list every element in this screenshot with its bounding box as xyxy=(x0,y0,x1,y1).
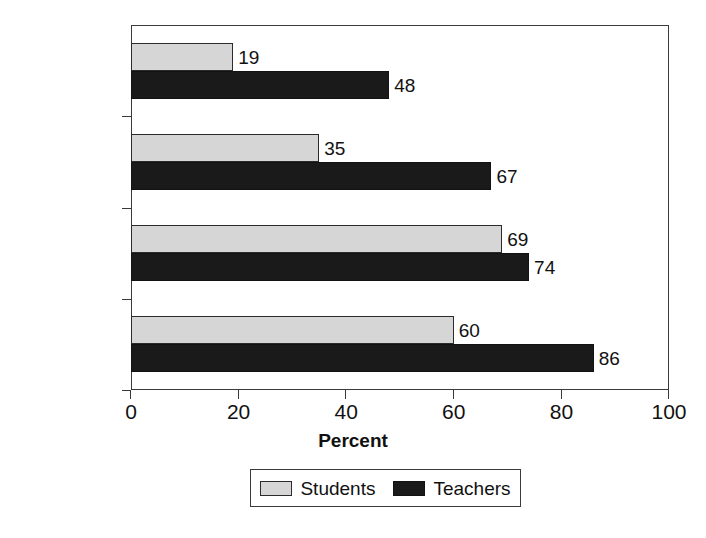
x-axis-title: Percent xyxy=(0,430,706,452)
bar-students-science xyxy=(131,316,454,344)
y-axis-tick xyxy=(122,208,131,209)
bar-value-label: 86 xyxy=(594,349,620,368)
x-axis-tick-label: 60 xyxy=(442,401,465,422)
bar-track: 19 xyxy=(131,43,669,71)
x-axis-tick-label: 20 xyxy=(227,401,250,422)
x-axis-tick-label: 40 xyxy=(335,401,358,422)
horizontal-bar-chart: All1948English3567Math6974Science6086 02… xyxy=(0,0,706,538)
bar-track: 74 xyxy=(131,253,669,281)
bar-track: 69 xyxy=(131,225,669,253)
bar-teachers-math xyxy=(131,253,529,281)
legend-item-students: Students xyxy=(260,479,375,498)
bar-value-label: 67 xyxy=(491,166,517,185)
x-axis-tick-label: 80 xyxy=(550,401,573,422)
bar-students-english xyxy=(131,134,319,162)
bar-teachers-all xyxy=(131,71,389,99)
legend: Students Teachers xyxy=(250,469,521,507)
bar-teachers-english xyxy=(131,162,491,190)
legend-swatch-students-icon xyxy=(260,481,292,496)
bar-value-label: 60 xyxy=(454,321,480,340)
bar-value-label: 48 xyxy=(389,75,415,94)
bar-track: 67 xyxy=(131,162,669,190)
bar-value-label: 35 xyxy=(319,138,345,157)
bar-track: 35 xyxy=(131,134,669,162)
x-axis-tick xyxy=(453,390,454,399)
bar-value-label: 19 xyxy=(233,47,259,66)
y-axis-tick xyxy=(122,299,131,300)
x-axis-tick-label: 100 xyxy=(651,401,686,422)
x-axis-tick xyxy=(238,390,239,399)
x-axis-tick xyxy=(668,390,669,399)
x-axis-tick xyxy=(345,390,346,399)
bar-value-label: 74 xyxy=(529,258,555,277)
legend-label-teachers: Teachers xyxy=(433,479,510,498)
bar-students-math xyxy=(131,225,502,253)
x-axis-tick xyxy=(130,390,131,399)
x-axis-tick-label: 0 xyxy=(125,401,137,422)
y-axis-tick xyxy=(122,116,131,117)
legend-swatch-teachers-icon xyxy=(393,481,425,496)
bar-students-all xyxy=(131,43,233,71)
bar-track: 48 xyxy=(131,71,669,99)
bar-value-label: 69 xyxy=(502,230,528,249)
bar-teachers-science xyxy=(131,344,594,372)
legend-item-teachers: Teachers xyxy=(393,479,510,498)
bar-track: 86 xyxy=(131,344,669,372)
legend-label-students: Students xyxy=(300,479,375,498)
x-axis-tick xyxy=(561,390,562,399)
bar-track: 60 xyxy=(131,316,669,344)
